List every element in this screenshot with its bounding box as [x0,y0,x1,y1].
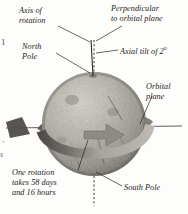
label-south-pole: South Pole [124,183,160,193]
label-axis-of-rotation: Axis of rotation [19,6,45,25]
label-orbital-plane: Orbital plane [146,82,170,101]
label-perpendicular-to-orbital-plane: Perpendicular to orbital plane [111,4,163,23]
leader-perpendicular [96,26,122,41]
axial-tilt-text: Axial tilt of [120,47,158,56]
leader-tilt [96,50,118,53]
leader-north-pole [56,53,90,73]
margin-fragment-top: ' [2,140,4,149]
label-north-pole: North Pole [22,42,41,61]
leader-axis [58,26,90,42]
rotation-arrow-tail [6,117,30,138]
planet-sphere [42,72,146,176]
label-axial-tilt: Axial tilt of 2o [120,44,167,56]
leader-south-pole [96,172,122,186]
planet-axial-tilt-figure: Axis of rotation Perpendicular to orbita… [0,0,188,214]
margin-fragment-bottom: s [0,150,3,159]
axis-of-rotation-line [91,40,93,76]
degree-symbol: o [164,45,167,51]
label-rotation-period-note: One rotation takes 58 days and 16 hours [12,168,57,199]
margin-page-number: 1 [1,37,6,47]
